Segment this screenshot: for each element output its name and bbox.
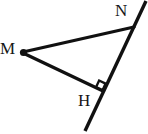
- line-segment-through-n-h: [85, 1, 146, 131]
- line-segment-mh: [23, 53, 103, 91]
- vertex-label-n: N: [115, 2, 127, 19]
- vertex-label-m: M: [0, 40, 15, 57]
- line-segment-mn: [23, 27, 134, 52]
- geometry-figure: M N H: [0, 0, 148, 134]
- vertex-label-h: H: [78, 92, 90, 109]
- vertex-dot-m: [20, 49, 27, 56]
- right-angle-marker-icon: [96, 81, 106, 91]
- geometry-canvas: [0, 0, 148, 134]
